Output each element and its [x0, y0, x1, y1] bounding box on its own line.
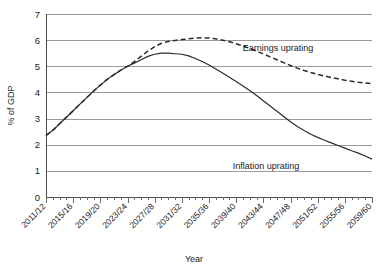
ytick-label-3: 3	[35, 113, 40, 124]
series-annotation-earnings-uprating: Earnings uprating	[243, 43, 314, 53]
y-axis-title: % of GDP	[6, 85, 16, 125]
xtick-label-2031-32: 2031/32	[154, 201, 183, 230]
ytick-label-5: 5	[35, 61, 40, 72]
line-chart: 01234567% of GDP2011/122015/162019/20202…	[0, 0, 390, 273]
series-line-inflation-uprating	[46, 53, 372, 159]
xtick-label-2011-12: 2011/12	[19, 201, 48, 230]
series-annotation-inflation-uprating: Inflation uprating	[233, 161, 300, 171]
ytick-label-1: 1	[35, 165, 40, 176]
ytick-label-7: 7	[35, 9, 40, 20]
xtick-label-2051-52: 2051/52	[290, 201, 319, 230]
xtick-label-2047-48: 2047/48	[263, 201, 292, 230]
xtick-label-2023-24: 2023/24	[100, 201, 129, 230]
xtick-label-2043-44: 2043/44	[236, 201, 265, 230]
xtick-label-2027-28: 2027/28	[127, 201, 156, 230]
x-axis-title: Year	[185, 254, 203, 264]
xtick-label-2035-36: 2035/36	[182, 201, 211, 230]
ytick-label-4: 4	[35, 87, 40, 98]
xtick-label-2055-56: 2055/56	[317, 201, 346, 230]
ytick-label-0: 0	[35, 192, 40, 203]
xtick-label-2019-20: 2019/20	[73, 201, 102, 230]
xtick-label-2059-60: 2059/60	[345, 201, 374, 230]
xtick-label-2039-40: 2039/40	[209, 201, 238, 230]
xtick-label-2015-16: 2015/16	[46, 201, 75, 230]
chart-container: 01234567% of GDP2011/122015/162019/20202…	[0, 0, 390, 273]
ytick-label-2: 2	[35, 139, 40, 150]
ytick-label-6: 6	[35, 35, 40, 46]
series-line-earnings-uprating	[46, 38, 372, 136]
